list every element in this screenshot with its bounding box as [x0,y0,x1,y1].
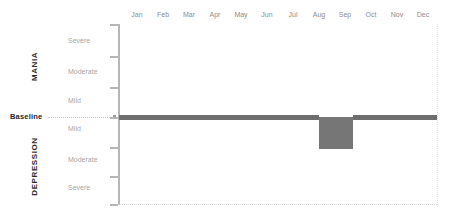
tier-label-mania-moderate: Moderate [68,68,98,75]
baseline-segment-oct-dec [353,115,437,120]
baseline-leader-line [48,117,118,118]
month-label-jul: Jul [280,11,306,18]
y-tick-mania-severe [110,56,118,58]
y-tick-top [110,24,118,26]
plot-right-rule [437,24,438,205]
tier-label-depression-mild: Mild [68,125,81,132]
month-label-jun: Jun [254,11,280,18]
y-tick-mania-moderate [110,87,118,89]
baseline-segment-jan-jul [119,115,319,120]
month-label-feb: Feb [150,11,176,18]
month-label-aug: Aug [306,11,332,18]
month-label-jan: Jan [124,11,150,18]
mood-chart: MANIA DEPRESSION Baseline Severe Moderat… [0,0,452,223]
axis-caption-depression: DEPRESSION [30,117,39,217]
baseline-label: Baseline [10,112,42,121]
month-label-nov: Nov [384,11,410,18]
tier-label-mania-mild: Mild [68,97,81,104]
tier-label-mania-severe: Severe [68,37,90,44]
y-tick-depression-mild [110,147,118,149]
plot-bottom-rule [118,204,437,205]
axis-caption-mania: MANIA [30,27,39,107]
month-label-dec: Dec [410,11,436,18]
episode-block-mild-depression-aug-sep [319,117,353,149]
month-label-sep: Sep [332,11,358,18]
y-tick-bottom [110,204,118,206]
month-label-oct: Oct [358,11,384,18]
month-label-may: May [228,11,254,18]
month-label-apr: Apr [202,11,228,18]
month-label-mar: Mar [176,11,202,18]
y-tick-depression-moderate [110,176,118,178]
y-tick-baseline [110,117,118,119]
tier-label-depression-moderate: Moderate [68,156,98,163]
tier-label-depression-severe: Severe [68,184,90,191]
